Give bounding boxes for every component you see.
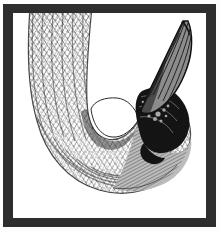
plate-mat — [13, 13, 206, 218]
penguin-engraving-artwork — [13, 13, 206, 218]
engraving-plate — [0, 0, 220, 232]
